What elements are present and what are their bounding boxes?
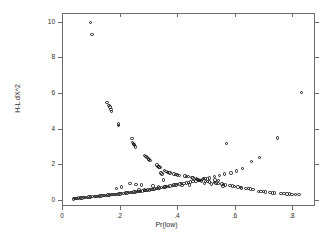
y-tick-label: 2: [34, 160, 55, 167]
data-point: [206, 177, 209, 180]
data-point: [72, 197, 75, 200]
x-tick-mark-top: [62, 13, 63, 17]
y-tick-mark: [58, 93, 62, 94]
x-tick-label: .6: [223, 212, 247, 219]
x-tick-mark: [177, 206, 178, 210]
y-tick-label: 6: [34, 89, 55, 96]
data-point: [130, 137, 133, 140]
y-tick-label: 0: [34, 196, 55, 203]
data-point: [162, 178, 165, 181]
y-tick-mark-right: [315, 129, 319, 130]
x-tick-label: .2: [108, 212, 132, 219]
x-tick-mark: [292, 206, 293, 210]
y-tick-mark: [58, 164, 62, 165]
y-tick-label: 10: [34, 18, 55, 25]
x-tick-label: 0: [50, 212, 74, 219]
y-tick-mark-right: [315, 22, 319, 23]
data-point: [276, 136, 279, 139]
data-point: [120, 185, 123, 188]
y-tick-mark: [58, 200, 62, 201]
x-tick-mark-top: [292, 13, 293, 17]
data-point: [163, 185, 166, 188]
data-point: [134, 183, 137, 186]
data-point: [188, 183, 191, 186]
data-point: [90, 33, 93, 36]
chart-canvas: 0.2.4.6.8 0246810 Pr(low) H-L dX^2: [0, 0, 333, 236]
data-point: [134, 145, 137, 148]
data-point: [240, 186, 243, 189]
y-tick-mark-right: [315, 57, 319, 58]
data-point: [244, 187, 247, 190]
x-axis-title: Pr(low): [0, 221, 333, 228]
data-point: [264, 190, 267, 193]
x-tick-mark: [235, 206, 236, 210]
y-tick-label: 8: [34, 53, 55, 60]
y-tick-mark: [58, 57, 62, 58]
data-point: [297, 193, 300, 196]
x-tick-label: .8: [280, 212, 304, 219]
data-point: [137, 188, 140, 191]
data-point: [216, 182, 219, 185]
y-tick-mark: [58, 22, 62, 23]
y-tick-mark: [58, 129, 62, 130]
data-point: [251, 188, 254, 191]
x-tick-mark-top: [235, 13, 236, 17]
data-point: [235, 169, 238, 172]
data-point: [128, 182, 131, 185]
data-point: [198, 179, 201, 182]
y-axis-title: H-L dX^2: [14, 54, 21, 144]
x-tick-mark-top: [177, 13, 178, 17]
data-point: [221, 184, 224, 187]
data-point: [148, 159, 151, 162]
x-tick-label: .4: [165, 212, 189, 219]
y-tick-mark-right: [315, 200, 319, 201]
x-tick-mark-top: [120, 13, 121, 17]
data-point: [140, 183, 143, 186]
data-point: [178, 174, 181, 177]
y-tick-mark-right: [315, 164, 319, 165]
data-point: [160, 172, 163, 175]
x-tick-mark: [120, 206, 121, 210]
y-tick-mark-right: [315, 93, 319, 94]
x-tick-mark: [62, 206, 63, 210]
data-point: [151, 184, 154, 187]
data-point: [225, 142, 228, 145]
data-point: [180, 184, 183, 187]
y-tick-label: 4: [34, 125, 55, 132]
data-point: [229, 171, 232, 174]
data-point: [168, 171, 171, 174]
data-point: [210, 182, 213, 185]
